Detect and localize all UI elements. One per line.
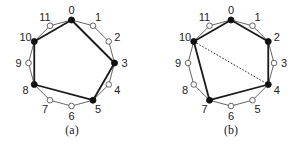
- node-label-0: 0: [228, 4, 234, 16]
- hollow-node-8: [191, 82, 197, 88]
- node-label-5: 5: [254, 103, 260, 115]
- hollow-node-6: [228, 103, 234, 109]
- bold-edge-7-10: [194, 42, 210, 101]
- bold-edge-0-2: [231, 20, 268, 42]
- node-label-11: 11: [199, 11, 210, 23]
- hollow-node-6: [69, 103, 75, 109]
- filled-node-0: [69, 17, 75, 23]
- hollow-node-11: [47, 23, 53, 29]
- hollow-node-3: [271, 60, 277, 66]
- hollow-node-1: [90, 23, 96, 29]
- node-label-8: 8: [182, 84, 188, 96]
- node-label-9: 9: [15, 57, 21, 69]
- filled-node-10: [31, 39, 37, 45]
- node-label-4: 4: [274, 84, 280, 96]
- node-label-8: 8: [23, 84, 29, 96]
- node-label-10: 10: [179, 31, 191, 43]
- node-label-0: 0: [68, 4, 74, 16]
- hollow-node-2: [106, 39, 112, 45]
- dashed-edge-10-4: [194, 42, 268, 85]
- bold-edge-4-7: [210, 85, 269, 101]
- ring-edge-5-6: [231, 100, 253, 106]
- node-label-2: 2: [274, 31, 280, 43]
- diagram-a: 01234567891011: [15, 4, 127, 122]
- hollow-node-9: [185, 60, 191, 66]
- node-label-9: 9: [175, 57, 181, 69]
- node-label-3: 3: [121, 57, 127, 69]
- filled-node-0: [228, 17, 234, 23]
- ring-edge-6-7: [50, 100, 72, 106]
- node-label-1: 1: [254, 11, 260, 23]
- hollow-node-1: [250, 23, 256, 29]
- node-label-5: 5: [95, 103, 101, 115]
- node-label-4: 4: [114, 84, 120, 96]
- caption-a: (a): [65, 123, 78, 137]
- node-label-10: 10: [19, 31, 31, 43]
- diagram-b: 01234567891011: [175, 4, 287, 122]
- hollow-node-4: [106, 82, 112, 88]
- filled-node-8: [31, 82, 37, 88]
- bold-edge-10-0: [194, 20, 231, 42]
- node-label-6: 6: [68, 110, 74, 122]
- filled-node-10: [191, 39, 197, 45]
- filled-node-4: [265, 82, 271, 88]
- node-label-6: 6: [228, 110, 234, 122]
- ring-edge-1-2: [93, 26, 109, 42]
- bold-edge-5-8: [34, 85, 93, 101]
- node-label-11: 11: [39, 11, 50, 23]
- hollow-node-9: [26, 60, 32, 66]
- node-label-7: 7: [201, 103, 207, 115]
- ring-edge-8-9: [188, 63, 194, 85]
- filled-node-3: [112, 60, 118, 66]
- node-label-3: 3: [281, 57, 287, 69]
- bold-edge-10-0: [34, 20, 71, 42]
- bold-edge-3-5: [93, 63, 115, 100]
- hollow-node-11: [207, 23, 213, 29]
- caption-b: (b): [224, 123, 238, 137]
- diagram-canvas: 01234567891011 01234567891011 (a) (b): [0, 0, 297, 147]
- node-label-1: 1: [95, 11, 101, 23]
- node-label-7: 7: [42, 103, 48, 115]
- filled-node-2: [265, 39, 271, 45]
- node-label-2: 2: [114, 31, 120, 43]
